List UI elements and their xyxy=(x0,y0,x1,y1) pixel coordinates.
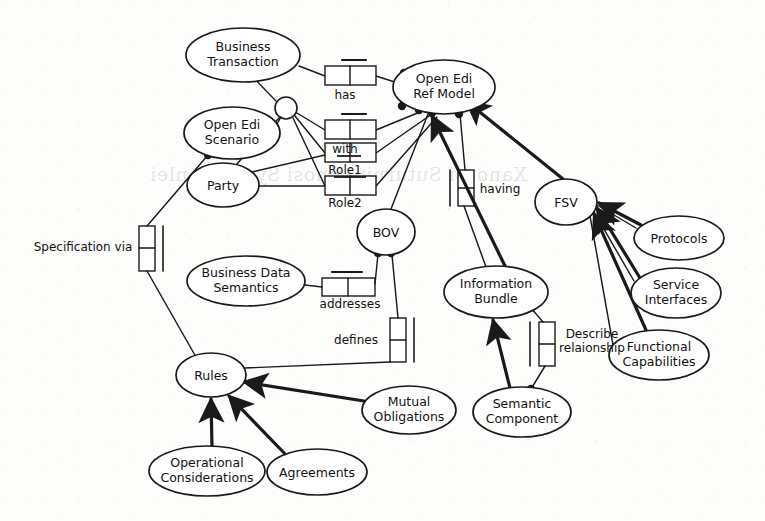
svg-text:Component: Component xyxy=(486,411,559,426)
svg-text:Transaction: Transaction xyxy=(206,54,279,69)
uml-diagram: Business Transaction Open Edi Ref Model … xyxy=(0,0,765,521)
line-hub-with xyxy=(297,113,325,130)
svg-text:Open Edi: Open Edi xyxy=(416,71,473,86)
node-label-protocols: Protocols xyxy=(651,231,708,246)
arrow-mutual-rules xyxy=(244,382,364,401)
diagram-canvas: Xanoroi Suturniulmnosi Syslen [enlei xyxy=(0,0,765,521)
svg-text:Party: Party xyxy=(207,178,240,193)
svg-text:Rules: Rules xyxy=(194,368,228,383)
assoc-label-relationship: relaionship xyxy=(559,341,625,355)
line-bov-defines xyxy=(392,255,398,318)
line-hub-role2 xyxy=(293,118,325,186)
line-addresses-bov xyxy=(375,254,378,284)
node-label-operational-considerations: Operational Considerations xyxy=(160,455,253,485)
node-label-open-edi-scenario: Open Edi Scenario xyxy=(204,117,261,147)
svg-text:Ref Model: Ref Model xyxy=(413,86,475,101)
svg-text:BOV: BOV xyxy=(373,225,400,240)
arrow-fsv-orm xyxy=(466,101,563,179)
svg-text:Operational: Operational xyxy=(170,455,243,470)
assoc-label-role1: Role1 xyxy=(328,163,362,177)
node-label-fsv: FSV xyxy=(554,195,578,210)
assoc-label-role2: Role2 xyxy=(328,196,362,210)
svg-text:Semantics: Semantics xyxy=(213,280,278,295)
svg-text:Semantic: Semantic xyxy=(493,396,552,411)
node-label-functional-capabilities: Functional Capabilities xyxy=(623,339,696,369)
assoc-label-with: with xyxy=(332,142,357,156)
svg-text:Capabilities: Capabilities xyxy=(623,354,696,369)
assoc-box-describe-relationship xyxy=(530,322,555,366)
node-label-business-transaction: Business Transaction xyxy=(206,39,279,69)
svg-text:FSV: FSV xyxy=(554,195,578,210)
line-having-infobundle xyxy=(464,206,486,267)
line-role2-orm xyxy=(376,117,437,186)
arrow-operational-rules xyxy=(211,399,212,447)
svg-text:Service: Service xyxy=(653,277,700,292)
node-label-agreements: Agreements xyxy=(279,465,355,480)
svg-text:Information: Information xyxy=(460,276,532,291)
node-label-business-data-semantics: Business Data Semantics xyxy=(202,265,291,295)
assoc-label-describe: Describe xyxy=(566,327,619,341)
assoc-box-defines xyxy=(390,318,414,362)
line-funccap-fsv xyxy=(590,216,613,345)
svg-text:Interfaces: Interfaces xyxy=(645,292,707,307)
svg-text:Obligations: Obligations xyxy=(374,409,445,424)
node-label-rules: Rules xyxy=(194,368,228,383)
line-bds-addresses xyxy=(305,285,322,287)
assoc-label-having: having xyxy=(480,182,521,196)
svg-text:Considerations: Considerations xyxy=(160,470,253,485)
node-label-open-edi-ref-model: Open Edi Ref Model xyxy=(413,71,475,101)
assoc-box-addresses xyxy=(322,272,375,296)
svg-text:Bundle: Bundle xyxy=(474,291,518,306)
line-bt-has xyxy=(299,66,325,76)
line-bov-orm xyxy=(391,114,428,209)
svg-text:Functional: Functional xyxy=(627,339,691,354)
svg-text:Open Edi: Open Edi xyxy=(204,117,261,132)
line-having-orm xyxy=(460,114,465,170)
svg-text:Protocols: Protocols xyxy=(651,231,708,246)
svg-text:Agreements: Agreements xyxy=(279,465,355,480)
arrow-semantic-infobundle xyxy=(493,320,510,388)
assoc-label-addresses: addresses xyxy=(320,297,381,311)
node-label-bov: BOV xyxy=(373,225,400,240)
arrow-agreements-rules xyxy=(229,396,288,457)
assoc-box-role2 xyxy=(325,176,376,195)
node-label-party: Party xyxy=(207,178,240,193)
assoc-box-specification-via xyxy=(139,226,163,271)
svg-text:Mutual: Mutual xyxy=(388,394,431,409)
svg-text:Scenario: Scenario xyxy=(205,132,259,147)
assoc-box-with xyxy=(325,114,376,139)
node-label-service-interfaces: Service Interfaces xyxy=(645,277,707,307)
line-role1-orm xyxy=(376,114,432,153)
assoc-label-specification-via: Specification via xyxy=(34,240,133,254)
assoc-box-has xyxy=(325,60,376,85)
node-label-semantic-component: Semantic Component xyxy=(486,396,559,426)
svg-text:Business Data: Business Data xyxy=(202,265,291,280)
assoc-label-defines: defines xyxy=(334,333,378,347)
line-defines-rules xyxy=(245,362,390,368)
aggregation-hub-circle xyxy=(275,97,297,119)
svg-text:Business: Business xyxy=(215,39,270,54)
assoc-label-has: has xyxy=(334,88,355,102)
